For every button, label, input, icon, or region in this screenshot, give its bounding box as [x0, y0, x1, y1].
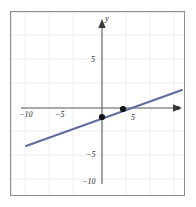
coordinate-plane-svg: [11, 12, 184, 195]
x-tick-label-neg5: −5: [55, 111, 64, 119]
y-tick-label-5: 5: [91, 56, 95, 64]
plot-frame: x y −10 −5 5 5 −5 −10: [10, 11, 185, 196]
y-tick-label-neg10: −10: [82, 178, 95, 186]
graph-figure: x y −10 −5 5 5 −5 −10: [0, 0, 196, 207]
plot-area: x y −10 −5 5 5 −5 −10: [11, 12, 184, 195]
y-tick-label-neg5: −5: [86, 151, 95, 159]
x-tick-label-neg10: −10: [19, 111, 32, 119]
x-axis-label: x: [176, 103, 180, 112]
x-tick-label-5: 5: [131, 114, 135, 122]
y-axis-label: y: [105, 14, 109, 23]
gridlines: [11, 12, 184, 195]
point-x-intercept: [120, 106, 126, 112]
point-y-intercept: [99, 114, 105, 120]
